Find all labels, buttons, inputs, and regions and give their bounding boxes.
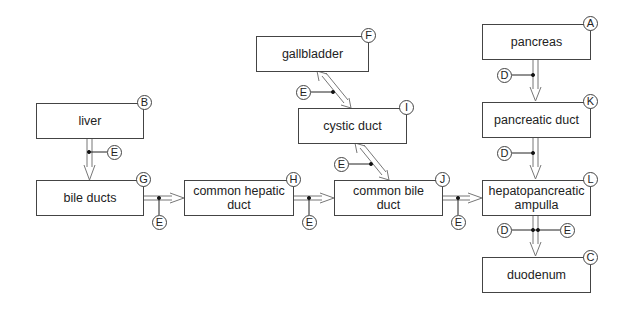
node-label: pancreas <box>511 35 562 49</box>
marker-e-common-hepatic: E <box>302 215 317 230</box>
node-label: liver <box>79 114 102 128</box>
node-pancreas: pancreas <box>482 24 591 60</box>
arrow-common-hepatic-to-common-bile-duct <box>293 193 334 203</box>
node-cystic-duct: cystic duct <box>298 108 407 144</box>
arrow-common-bile-to-ampulla <box>442 193 482 203</box>
node-label-line2: duct <box>377 198 401 212</box>
arrow-cystic-duct-common-bile-duct <box>355 143 389 180</box>
badge-a: A <box>583 16 598 31</box>
badge-l: L <box>583 172 598 187</box>
node-duodenum: duodenum <box>482 257 591 293</box>
marker-e-gallbladder: E <box>296 85 311 100</box>
node-label-line2: ampulla <box>515 198 559 212</box>
marker-e-cystic: E <box>334 157 349 172</box>
node-pancreatic-duct: pancreatic duct <box>482 102 591 138</box>
node-liver: liver <box>36 103 144 139</box>
badge-h: H <box>286 172 301 187</box>
node-label: cystic duct <box>323 119 381 133</box>
node-label: pancreatic duct <box>494 113 579 127</box>
badge-k: K <box>583 94 598 109</box>
node-bile-ducts: bile ducts <box>36 180 144 216</box>
badge-b: B <box>137 95 152 110</box>
node-gallbladder: gallbladder <box>256 36 369 72</box>
marker-d-ampulla: D <box>497 223 512 238</box>
badge-g: G <box>136 172 151 187</box>
node-label: duodenum <box>507 268 566 282</box>
marker-e-common-bile: E <box>451 215 466 230</box>
badge-i: I <box>399 100 414 115</box>
marker-e-ampulla: E <box>560 223 575 238</box>
node-label-line1: common hepatic <box>193 184 285 198</box>
node-common-bile-duct: common bile duct <box>334 180 443 216</box>
badge-j: J <box>435 172 450 187</box>
node-label: gallbladder <box>282 47 343 61</box>
arrow-pancreatic-duct-to-ampulla <box>530 137 541 179</box>
node-label-line1: hepatopancreatic <box>489 184 585 198</box>
marker-d-pancreatic-duct: D <box>497 146 512 161</box>
arrow-pancreas-to-pancreatic-duct <box>530 59 541 101</box>
arrow-gallbladder-cystic-duct <box>317 71 351 108</box>
arrow-bile-ducts-to-common-hepatic-duct <box>143 193 184 203</box>
marker-e-liver: E <box>107 145 122 160</box>
node-label-line2: duct <box>227 198 251 212</box>
arrow-liver-to-bile-ducts <box>84 138 95 180</box>
node-common-hepatic-duct: common hepatic duct <box>184 180 294 216</box>
node-hepatopancreatic-ampulla: hepatopancreatic ampulla <box>482 180 591 216</box>
badge-c: C <box>583 250 598 265</box>
badge-f: F <box>361 28 376 43</box>
node-label: bile ducts <box>64 191 117 205</box>
marker-d-pancreas: D <box>497 68 512 83</box>
arrow-ampulla-to-duodenum <box>530 215 541 256</box>
node-label-line1: common bile <box>353 184 424 198</box>
marker-e-bile-ducts: E <box>152 215 167 230</box>
